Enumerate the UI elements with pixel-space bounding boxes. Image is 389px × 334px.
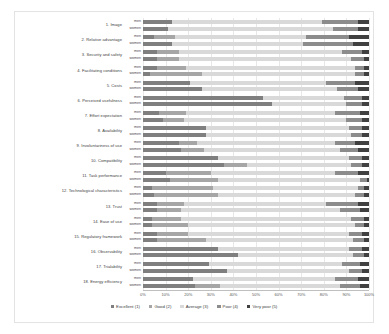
stacked-bar-women[interactable] (143, 72, 369, 76)
bar-segment-4[interactable] (337, 87, 357, 91)
bar-segment-5[interactable] (360, 208, 369, 212)
bar-segment-2[interactable] (181, 148, 204, 152)
bar-segment-3[interactable] (204, 148, 340, 152)
bar-segment-3[interactable] (181, 208, 339, 212)
bar-segment-4[interactable] (351, 163, 362, 167)
bar-segment-1[interactable] (143, 72, 150, 76)
bar-segment-4[interactable] (326, 202, 358, 206)
bar-segment-4[interactable] (349, 247, 363, 251)
bar-segment-5[interactable] (364, 238, 369, 242)
bar-segment-3[interactable] (179, 57, 351, 61)
bar-segment-3[interactable] (238, 253, 353, 257)
bar-segment-1[interactable] (143, 20, 172, 24)
bar-segment-1[interactable] (143, 133, 206, 137)
legend-item[interactable]: Average (3) (180, 304, 208, 309)
bar-segment-5[interactable] (360, 284, 369, 288)
stacked-bar-women[interactable] (143, 102, 369, 106)
stacked-bar-men[interactable] (143, 126, 369, 130)
bar-segment-5[interactable] (358, 202, 369, 206)
bar-segment-5[interactable] (362, 247, 369, 251)
bar-segment-4[interactable] (333, 27, 358, 31)
stacked-bar-women[interactable] (143, 238, 369, 242)
bar-segment-2[interactable] (157, 57, 180, 61)
bar-segment-3[interactable] (202, 72, 356, 76)
bar-segment-4[interactable] (360, 178, 367, 182)
bar-segment-1[interactable] (143, 171, 166, 175)
bar-segment-1[interactable] (143, 81, 190, 85)
bar-segment-3[interactable] (197, 141, 335, 145)
bar-segment-4[interactable] (335, 171, 358, 175)
stacked-bar-men[interactable] (143, 81, 369, 85)
bar-segment-1[interactable] (143, 27, 168, 31)
bar-segment-2[interactable] (170, 178, 217, 182)
bar-segment-5[interactable] (358, 20, 369, 24)
bar-segment-3[interactable] (218, 178, 360, 182)
bar-segment-1[interactable] (143, 57, 157, 61)
bar-segment-4[interactable] (349, 232, 363, 236)
stacked-bar-men[interactable] (143, 141, 369, 145)
bar-segment-1[interactable] (143, 202, 157, 206)
bar-segment-1[interactable] (143, 284, 195, 288)
bar-segment-5[interactable] (364, 66, 369, 70)
bar-segment-1[interactable] (143, 102, 272, 106)
bar-segment-2[interactable] (152, 217, 181, 221)
bar-segment-5[interactable] (362, 163, 369, 167)
bar-segment-1[interactable] (143, 238, 157, 242)
bar-segment-1[interactable] (143, 232, 157, 236)
bar-segment-2[interactable] (166, 171, 211, 175)
stacked-bar-men[interactable] (143, 111, 369, 115)
bar-segment-3[interactable] (188, 232, 348, 236)
bar-segment-1[interactable] (143, 35, 154, 39)
bar-segment-1[interactable] (143, 141, 179, 145)
bar-segment-3[interactable] (202, 87, 338, 91)
bar-segment-3[interactable] (218, 247, 349, 251)
bar-segment-5[interactable] (353, 42, 369, 46)
legend-item[interactable]: Poor (4) (217, 304, 238, 309)
bar-segment-4[interactable] (326, 81, 355, 85)
stacked-bar-men[interactable] (143, 171, 369, 175)
bar-segment-2[interactable] (224, 163, 247, 167)
bar-segment-2[interactable] (152, 223, 188, 227)
bar-segment-4[interactable] (346, 102, 362, 106)
bar-segment-4[interactable] (355, 66, 364, 70)
bar-segment-5[interactable] (355, 141, 369, 145)
stacked-bar-women[interactable] (143, 87, 369, 91)
bar-segment-3[interactable] (188, 223, 355, 227)
bar-segment-4[interactable] (353, 238, 364, 242)
bar-segment-4[interactable] (335, 141, 355, 145)
bar-segment-3[interactable] (184, 202, 326, 206)
bar-segment-4[interactable] (353, 253, 364, 257)
stacked-bar-men[interactable] (143, 50, 369, 54)
bar-segment-3[interactable] (184, 118, 347, 122)
bar-segment-5[interactable] (360, 262, 369, 266)
bar-segment-3[interactable] (172, 20, 321, 24)
stacked-bar-men[interactable] (143, 66, 369, 70)
bar-segment-2[interactable] (163, 118, 183, 122)
bar-segment-3[interactable] (206, 238, 353, 242)
bar-segment-4[interactable] (335, 111, 360, 115)
bar-segment-3[interactable] (263, 96, 344, 100)
bar-segment-1[interactable] (143, 42, 172, 46)
bar-segment-5[interactable] (362, 50, 369, 54)
bar-segment-3[interactable] (193, 277, 335, 281)
stacked-bar-women[interactable] (143, 193, 369, 197)
bar-segment-1[interactable] (143, 126, 206, 130)
bar-segment-1[interactable] (143, 262, 209, 266)
bar-segment-4[interactable] (340, 148, 358, 152)
bar-segment-3[interactable] (213, 186, 358, 190)
bar-segment-4[interactable] (342, 50, 362, 54)
legend-item[interactable]: Excellent (1) (111, 304, 140, 309)
bar-segment-1[interactable] (143, 253, 238, 257)
bar-segment-2[interactable] (157, 202, 184, 206)
bar-segment-5[interactable] (362, 156, 369, 160)
stacked-bar-men[interactable] (143, 35, 369, 39)
stacked-bar-women[interactable] (143, 284, 369, 288)
bar-segment-1[interactable] (143, 223, 152, 227)
bar-segment-5[interactable] (360, 111, 369, 115)
bar-segment-3[interactable] (206, 133, 351, 137)
bar-segment-1[interactable] (143, 50, 157, 54)
bar-segment-2[interactable] (157, 66, 186, 70)
bar-segment-4[interactable] (306, 35, 349, 39)
stacked-bar-men[interactable] (143, 156, 369, 160)
bar-segment-5[interactable] (358, 171, 369, 175)
